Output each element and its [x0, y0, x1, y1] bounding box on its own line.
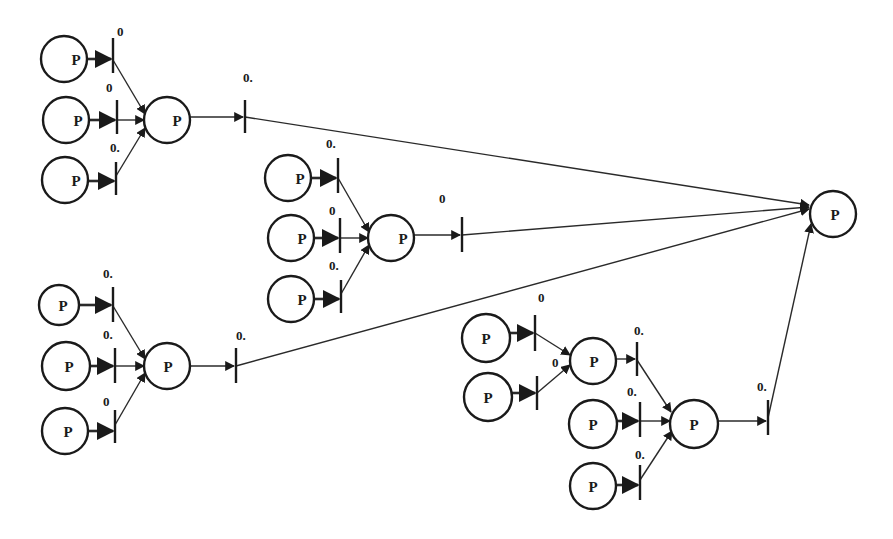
transition-label: 0.: [634, 323, 644, 338]
arc-arrow: [462, 207, 809, 235]
transition-label: 0.: [627, 384, 637, 399]
arc-arrow: [116, 128, 145, 176]
place-label: P: [481, 331, 490, 347]
transition-t6: 0: [329, 203, 340, 253]
transition-t2: 0: [106, 80, 117, 134]
place-p19: P: [810, 191, 856, 237]
place-label: P: [73, 113, 82, 129]
transition-label: 0.: [103, 266, 113, 281]
transition-t5: 0.: [326, 136, 338, 193]
place-label: P: [588, 479, 597, 495]
transition-t7: 0.: [329, 258, 341, 313]
transition-label: 0: [552, 355, 559, 370]
arc-arrow: [535, 333, 570, 355]
place-p4: P: [144, 97, 190, 143]
place-label: P: [483, 390, 492, 406]
place-p18: P: [670, 400, 718, 448]
place-label: P: [64, 359, 73, 375]
place-p11: P: [42, 408, 88, 454]
place-p17: P: [570, 463, 616, 509]
place-circle: [268, 215, 314, 261]
arc-arrow: [115, 373, 145, 425]
place-label: P: [163, 359, 172, 375]
place-p16: P: [569, 400, 617, 448]
arc-arrow: [338, 178, 369, 232]
transition-t1: 0: [113, 24, 124, 73]
place-label: P: [830, 207, 839, 223]
place-p5: P: [265, 155, 311, 201]
transition-label: 0.: [110, 140, 120, 155]
transition-t16: 0.: [627, 384, 640, 437]
place-p13: P: [462, 314, 510, 362]
place-p9: P: [39, 285, 79, 325]
transition-label: 0: [103, 394, 110, 409]
arc-arrow: [637, 360, 671, 412]
place-label: P: [295, 171, 304, 187]
transition-t12: 0.: [236, 328, 246, 383]
place-label: P: [71, 52, 80, 68]
transition-label: 0: [538, 290, 545, 305]
arc-arrow: [113, 306, 145, 359]
transitions-layer: 000.0.0.00.00.0.00.000.0.0.0.: [103, 24, 768, 500]
transition-t13: 0: [535, 290, 545, 351]
place-p7: P: [268, 276, 314, 322]
place-p3: P: [42, 157, 88, 203]
place-label: P: [63, 424, 72, 440]
place-label: P: [297, 292, 306, 308]
transition-label: 0: [439, 191, 446, 206]
place-circle: [144, 97, 190, 143]
arc-arrow: [768, 224, 811, 418]
transition-t18: 0.: [757, 379, 768, 435]
place-label: P: [71, 173, 80, 189]
place-circle: [42, 157, 88, 203]
transition-t17: 0.: [635, 447, 645, 500]
transition-label: 0.: [757, 379, 767, 394]
transition-label: 0.: [329, 258, 339, 273]
transition-label: 0: [106, 80, 113, 95]
place-p12: P: [144, 343, 190, 389]
place-label: P: [588, 417, 597, 433]
place-p14: P: [464, 373, 512, 421]
transition-label: 0.: [236, 328, 246, 343]
place-label: P: [398, 231, 407, 247]
transition-label: 0.: [326, 136, 336, 151]
place-circle: [268, 276, 314, 322]
transition-label: 0.: [243, 70, 253, 85]
place-p8: P: [368, 215, 414, 261]
arc-arrow: [341, 245, 369, 294]
transition-t9: 0.: [103, 266, 113, 322]
transition-t3: 0.: [110, 140, 120, 195]
place-label: P: [297, 231, 306, 247]
place-p15: P: [570, 338, 616, 384]
transition-t4: 0.: [243, 70, 253, 133]
arc-arrow: [245, 117, 809, 205]
transition-t11: 0: [103, 394, 115, 443]
arc-arrow: [236, 209, 809, 366]
arc-arrow: [640, 431, 672, 480]
places-layer: PPPPPPPPPPPPPPPPPPP: [39, 36, 856, 509]
place-label: P: [172, 113, 181, 129]
place-label: P: [589, 354, 598, 370]
transition-label: 0.: [635, 447, 645, 462]
place-p6: P: [268, 215, 314, 261]
place-p1: P: [41, 36, 87, 82]
place-label: P: [689, 417, 698, 433]
transition-t8: 0: [439, 191, 462, 252]
transition-t10: 0.: [103, 327, 115, 383]
petri-net-diagram: 000.0.0.00.00.0.00.000.0.0.0. PPPPPPPPPP…: [0, 0, 893, 539]
place-p2: P: [43, 97, 89, 143]
transition-t14: 0: [537, 355, 559, 410]
place-p10: P: [42, 342, 90, 390]
transition-label: 0: [329, 203, 336, 218]
transition-label: 0: [117, 24, 124, 39]
transition-label: 0.: [103, 327, 113, 342]
place-label: P: [58, 298, 67, 314]
